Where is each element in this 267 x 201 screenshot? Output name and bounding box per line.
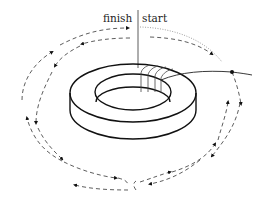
start-label: start <box>142 12 168 24</box>
junction-dot <box>230 70 234 74</box>
start-dotted-path <box>140 27 222 62</box>
lead-wire <box>161 71 252 80</box>
toroid-diagram: finish start <box>0 0 267 201</box>
inner-field-loop <box>36 37 241 186</box>
finish-label: finish <box>103 12 133 24</box>
